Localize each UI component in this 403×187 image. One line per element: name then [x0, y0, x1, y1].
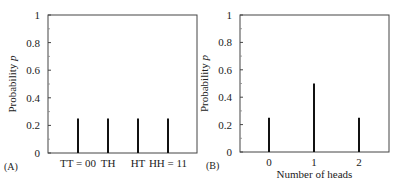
- x-tick-label: TT = 00: [60, 157, 96, 169]
- panel-b: 00.20.40.60.81Probability p012Number of …: [198, 9, 389, 180]
- panel-label: (B): [206, 160, 219, 172]
- y-tick-label: 0: [227, 146, 233, 158]
- y-tick-label: 0.6: [218, 64, 232, 76]
- y-axis-label: Probability p: [198, 54, 210, 112]
- x-tick-label: TH: [101, 157, 116, 169]
- x-tick-label: 0: [266, 156, 272, 168]
- y-tick-label: 0: [35, 147, 41, 159]
- plot-frame: [48, 15, 197, 153]
- x-tick-label: HT: [131, 157, 146, 169]
- panel-label: (A): [4, 161, 18, 173]
- y-tick-label: 1: [227, 9, 233, 21]
- figure: 00.20.40.60.81Probability pTT = 00THHTHH…: [0, 0, 403, 187]
- y-tick-label: 0.4: [218, 91, 232, 103]
- panel-a: 00.20.40.60.81Probability pTT = 00THHTHH…: [4, 9, 197, 173]
- y-tick-label: 0.2: [26, 119, 40, 131]
- y-tick-label: 0.8: [26, 37, 40, 49]
- y-tick-label: 0.4: [26, 92, 40, 104]
- x-tick-label: HH = 11: [149, 157, 187, 169]
- x-tick-label: 1: [311, 156, 317, 168]
- y-tick-label: 1: [35, 9, 41, 21]
- x-axis-label: Number of heads: [277, 168, 353, 180]
- y-tick-label: 0.8: [218, 36, 232, 48]
- y-axis-label: Probability p: [6, 55, 18, 113]
- y-tick-label: 0.6: [26, 64, 40, 76]
- y-tick-label: 0.2: [218, 119, 232, 131]
- x-tick-label: 2: [356, 156, 362, 168]
